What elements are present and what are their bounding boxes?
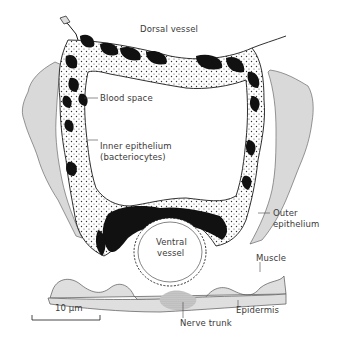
dorsal-vessel-tip — [60, 16, 70, 24]
label-dorsal-vessel: Dorsal vessel — [140, 24, 198, 34]
label-ventral-vessel: Ventral — [156, 237, 187, 247]
label-inner-epithelium-sub: (bacteriocytes) — [100, 152, 166, 162]
dorsal-vessel-strand-right — [252, 36, 286, 48]
label-blood-space: Blood space — [100, 93, 153, 103]
label-ventral-vessel-sub: vessel — [157, 248, 184, 258]
label-muscle: Muscle — [256, 253, 286, 263]
label-outer-epithelium-sub: epithelium — [273, 219, 319, 229]
label-nerve-trunk: Nerve trunk — [180, 318, 232, 328]
scale-bar — [32, 315, 100, 320]
nerve-trunk — [160, 291, 197, 311]
label-outer-epithelium: Outer — [273, 208, 298, 218]
label-epidermis: Epidermis — [236, 305, 279, 315]
scale-bar-label: 10 µm — [55, 303, 83, 313]
trophosome-cross-section-diagram — [0, 0, 339, 341]
label-inner-epithelium: Inner epithelium — [100, 141, 172, 151]
